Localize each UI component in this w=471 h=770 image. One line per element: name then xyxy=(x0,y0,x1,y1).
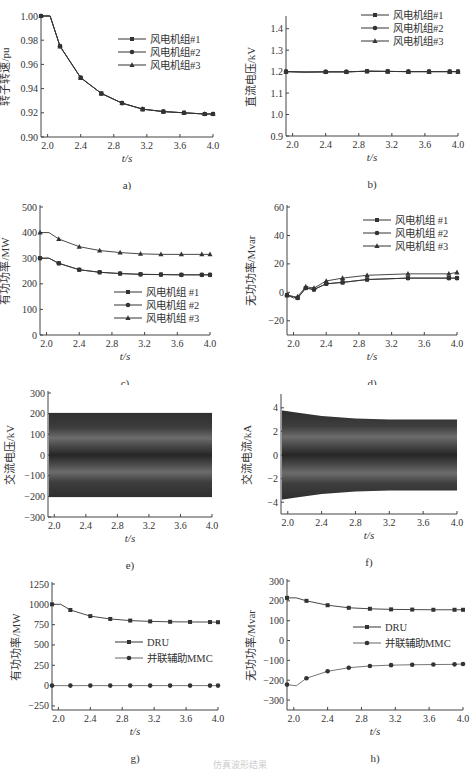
y-tick-label: 0.92 xyxy=(21,107,39,118)
y-tick-label: 300 xyxy=(269,576,284,587)
x-tick-label: 3.6 xyxy=(171,338,184,349)
legend-item: 风电机组#2 xyxy=(150,46,201,58)
figure-caption: 仿真波形结果 xyxy=(180,758,300,770)
series-3 xyxy=(37,230,212,257)
y-tick-label: 40 xyxy=(274,230,284,241)
legend: DRU并联辅助MMC xyxy=(115,637,213,664)
x-tick-label: 3.2 xyxy=(385,338,398,349)
x-tick-label: 2.8 xyxy=(349,517,362,528)
legend-item: 并联辅助MMC xyxy=(147,652,213,664)
x-axis-label: t/s xyxy=(367,350,377,362)
y-tick-label: 300 xyxy=(22,253,37,264)
x-tick-label: 2.0 xyxy=(40,338,53,349)
x-tick-label: 3.2 xyxy=(141,140,154,151)
legend-item: 风电机组#1 xyxy=(393,9,444,21)
chart-a-svg: 0.900.920.940.960.981.002.02.42.83.23.64… xyxy=(0,0,235,190)
y-tick-label: 400 xyxy=(22,227,37,238)
y-tick-label: −100 xyxy=(24,470,45,481)
y-tick-label: 2 xyxy=(273,426,278,437)
legend-item: 风电机组#2 xyxy=(393,22,444,34)
x-tick-label: 2.4 xyxy=(74,140,87,151)
panel-label: g) xyxy=(130,752,140,765)
y-tick-label: 1.2 xyxy=(271,66,284,77)
panel-label: c) xyxy=(121,377,130,385)
y-tick-label: 200 xyxy=(30,408,45,419)
x-tick-label: 2.4 xyxy=(320,338,333,349)
y-tick-label: 1.1 xyxy=(271,88,284,99)
chart-f: −4−20242.02.42.83.23.64.0t/s交流电流/kAf) xyxy=(235,385,471,575)
x-axis-label: t/s xyxy=(125,532,135,544)
x-tick-label: 2.0 xyxy=(287,338,300,349)
y-tick-label: −300 xyxy=(24,512,45,523)
y-tick-label: 100 xyxy=(30,429,45,440)
x-tick-label: 2.4 xyxy=(321,713,334,724)
x-tick-label: 2.4 xyxy=(319,139,332,150)
chart-e-svg: −300−200−10001002003002.02.42.83.23.64.0… xyxy=(0,385,235,575)
x-tick-label: 3.2 xyxy=(383,517,396,528)
y-tick-label: 0 xyxy=(32,330,37,341)
legend-item: 风电机组#3 xyxy=(393,35,444,47)
y-tick-label: −200 xyxy=(24,491,45,502)
y-tick-label: −250 xyxy=(28,700,49,711)
legend-item: 风电机组 #3 xyxy=(395,240,448,252)
x-tick-label: 2.4 xyxy=(84,713,97,724)
ac-waveform xyxy=(49,413,212,498)
y-tick-label: −2 xyxy=(267,473,278,484)
x-tick-label: 3.2 xyxy=(143,520,156,531)
x-tick-label: 3.6 xyxy=(174,140,187,151)
x-tick-label: 4.0 xyxy=(452,139,465,150)
y-tick-label: 1.3 xyxy=(271,45,284,56)
series-2 xyxy=(38,256,213,277)
x-tick-label: 3.6 xyxy=(418,338,431,349)
y-tick-label: 100 xyxy=(269,615,284,626)
x-tick-label: 4.0 xyxy=(206,520,219,531)
legend-item: 风电机组 #1 xyxy=(395,214,448,226)
y-axis-label: 交流电流/kA xyxy=(240,425,253,486)
y-tick-label: −300 xyxy=(263,695,284,706)
y-tick-label: 0 xyxy=(273,450,278,461)
chart-h: −300−200−10001002003002.02.42.83.23.64.0… xyxy=(235,575,471,765)
y-tick-label: 1000 xyxy=(29,599,49,610)
legend: DRU并联辅助MMC xyxy=(353,622,451,649)
x-tick-label: 2.4 xyxy=(73,338,86,349)
x-tick-label: 3.6 xyxy=(423,713,436,724)
legend-item: 风电机组#1 xyxy=(150,33,201,45)
series-2 xyxy=(285,276,460,301)
panel-label: f) xyxy=(365,556,373,569)
legend-item: DRU xyxy=(385,622,408,633)
legend: 风电机组 #1风电机组 #2风电机组 #3 xyxy=(363,214,448,252)
y-tick-label: −20 xyxy=(268,315,284,326)
x-tick-label: 3.2 xyxy=(138,338,151,349)
x-tick-label: 2.0 xyxy=(41,140,54,151)
y-tick-label: 0.90 xyxy=(21,132,39,143)
chart-b: 0.91.01.11.21.31.42.02.42.83.23.64.0t/s直… xyxy=(235,0,471,190)
x-tick-label: 2.0 xyxy=(288,713,301,724)
x-tick-label: 2.4 xyxy=(80,520,93,531)
x-axis-label: t/s xyxy=(122,152,132,164)
x-axis-label: t/s xyxy=(364,529,374,541)
legend: 风电机组#1风电机组#2风电机组#3 xyxy=(118,33,201,71)
y-axis-label: 有功功率/MW xyxy=(9,613,22,681)
panel-label: d) xyxy=(367,377,377,385)
y-tick-label: 200 xyxy=(22,278,37,289)
x-tick-label: 4.0 xyxy=(451,517,464,528)
x-tick-label: 4.0 xyxy=(204,338,217,349)
y-tick-label: 250 xyxy=(34,660,49,671)
series-2 xyxy=(285,662,466,687)
y-axis-label: 交流电压/kV xyxy=(3,425,16,486)
x-tick-label: 2.8 xyxy=(353,338,366,349)
chart-e: −300−200−10001002003002.02.42.83.23.64.0… xyxy=(0,385,235,575)
y-tick-label: 0 xyxy=(40,450,45,461)
x-axis-label: t/s xyxy=(130,725,140,737)
ac-waveform xyxy=(282,410,457,500)
panel-label: h) xyxy=(370,752,380,765)
chart-c-svg: 01002003004005002.02.42.83.23.64.0t/s有功功… xyxy=(0,195,235,385)
y-tick-label: 500 xyxy=(34,639,49,650)
x-tick-label: 3.6 xyxy=(419,139,432,150)
y-axis-label: 转子转速/pu xyxy=(0,47,11,106)
x-tick-label: 3.2 xyxy=(386,139,399,150)
panel-label: e) xyxy=(126,559,135,572)
legend-item: 风电机组 #3 xyxy=(146,312,199,324)
y-tick-label: 500 xyxy=(22,202,37,213)
y-tick-label: 1250 xyxy=(29,579,49,590)
